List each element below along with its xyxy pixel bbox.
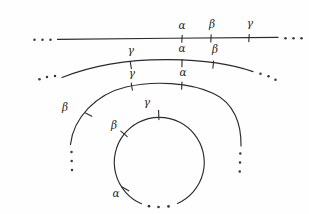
circle-label-gamma: γ [144, 96, 151, 108]
line-path [58, 37, 279, 39]
circle-ellipsis-bottom [148, 205, 170, 209]
arc-2-label-beta: β [61, 101, 68, 113]
level-line: α β γ [33, 17, 303, 42]
circle-label-beta: β [110, 119, 117, 131]
level-circle: γ β α [110, 96, 204, 208]
arc-2-label-gamma: γ [129, 67, 136, 79]
line-ellipsis-left [33, 38, 52, 41]
arc-1-ellipsis-right [259, 72, 277, 81]
arc-2-tick-gamma [131, 83, 132, 90]
covering-space-figure: Covering spaces of the circle A line, tw… [0, 0, 309, 214]
line-label-beta: β [208, 18, 215, 30]
level-arc-2: β γ α [61, 66, 242, 173]
arc-1-tick-beta [213, 61, 214, 68]
arc-1-label-gamma: γ [128, 44, 135, 56]
arc-1-path [62, 60, 253, 78]
level-arc-1: γ α β [38, 42, 277, 81]
line-ellipsis-right [284, 37, 303, 40]
arc-1-ellipsis-left [38, 75, 56, 81]
arc-1-label-beta: β [211, 43, 218, 55]
arc-2-tick-beta [86, 113, 92, 116]
arc-2-ellipsis-left [70, 151, 73, 172]
line-label-gamma: γ [247, 17, 254, 29]
line-label-alpha: α [178, 19, 185, 31]
figure-canvas: Covering spaces of the circle A line, tw… [0, 0, 309, 214]
arc-2-path [71, 83, 242, 146]
arc-1-label-alpha: α [178, 42, 185, 54]
arc-2-label-alpha: α [179, 66, 186, 78]
arc-2-ellipsis-right [238, 152, 241, 173]
circle-label-alpha: α [112, 187, 119, 199]
